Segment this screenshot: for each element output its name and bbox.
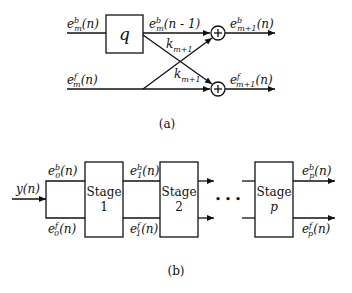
label-input-bottom: efm(n) — [67, 72, 98, 89]
svg-text:ebm+1(n): ebm+1(n) — [230, 16, 274, 33]
stage-p-index: p — [270, 200, 278, 214]
svg-text:eb1(n): eb1(n) — [130, 163, 160, 180]
input-split — [46, 181, 85, 218]
caption-a: (a) — [159, 117, 176, 131]
label-output-top: ebm+1(n) — [230, 16, 274, 33]
svg-text:ebp(n): ebp(n) — [302, 163, 332, 180]
svg-text:efm+1(n): efm+1(n) — [230, 72, 273, 89]
stage-2-index: 2 — [175, 200, 183, 214]
stage-p-title: Stage — [257, 185, 292, 199]
svg-text:km+1: km+1 — [174, 67, 201, 84]
stage-1-index: 1 — [100, 200, 108, 214]
lattice-filter-diagram: q ebm(n) efm(n) ebm(n - 1) km+1 km+1 ebm… — [0, 0, 352, 293]
svg-text:eb0(n): eb0(n) — [48, 163, 78, 180]
label-e1f: ef1(n) — [130, 221, 159, 238]
svg-text:ebm(n - 1): ebm(n - 1) — [149, 16, 201, 33]
svg-text:ef0(n): ef0(n) — [48, 221, 77, 238]
svg-text:efm(n): efm(n) — [67, 72, 98, 89]
label-output-bottom: efm+1(n) — [230, 72, 273, 89]
stage-2-title: Stage — [162, 185, 197, 199]
svg-text:km+1: km+1 — [166, 37, 193, 54]
delay-label: q — [119, 24, 130, 44]
stage-1-title: Stage — [87, 185, 122, 199]
label-e1b: eb1(n) — [130, 163, 160, 180]
label-coef-bottom: km+1 — [174, 67, 201, 84]
label-epb: ebp(n) — [302, 163, 332, 180]
label-input-top: ebm(n) — [67, 16, 99, 33]
caption-b: (b) — [167, 264, 184, 278]
label-delayed: ebm(n - 1) — [149, 16, 201, 33]
label-e0f: ef0(n) — [48, 221, 77, 238]
label-epf: efp(n) — [302, 221, 331, 238]
svg-text:ef1(n): ef1(n) — [130, 221, 159, 238]
svg-text:ebm(n): ebm(n) — [67, 16, 99, 33]
svg-text:efp(n): efp(n) — [302, 221, 331, 238]
ellipsis: • • • — [215, 193, 241, 206]
label-coef-top: km+1 — [166, 37, 193, 54]
input-label: y(n) — [15, 182, 40, 196]
label-e0b: eb0(n) — [48, 163, 78, 180]
